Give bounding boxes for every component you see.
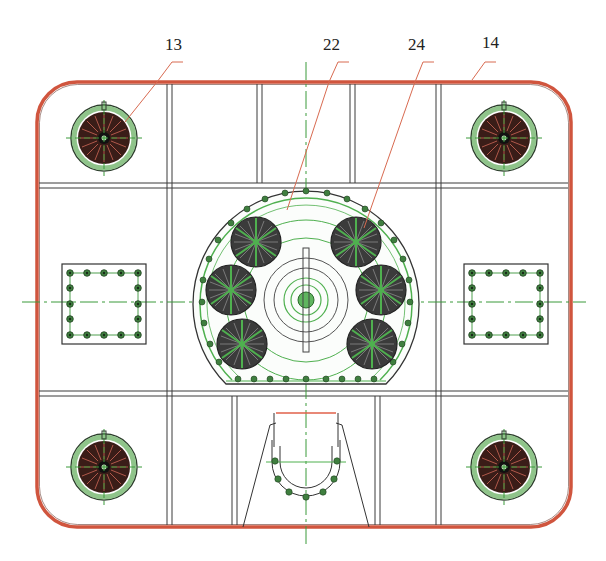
callout-24: 24 xyxy=(408,35,425,55)
bolt-plate-right xyxy=(464,264,548,344)
motor-upper-left xyxy=(231,217,281,267)
corner-unit-top-left xyxy=(66,100,142,176)
motor-lower-right xyxy=(347,319,397,369)
corner-unit-top-right xyxy=(466,100,542,176)
motor-mid-left xyxy=(206,265,256,315)
motor-upper-right xyxy=(331,217,381,267)
corner-unit-bottom-right xyxy=(466,429,542,505)
motor-lower-left xyxy=(217,319,267,369)
callout-22: 22 xyxy=(323,35,340,55)
motor-mid-right xyxy=(356,265,406,315)
callout-14: 14 xyxy=(482,33,499,53)
corner-unit-bottom-left xyxy=(66,429,142,505)
engineering-drawing xyxy=(0,0,606,561)
callout-13: 13 xyxy=(165,35,182,55)
bolt-plate-left xyxy=(62,264,146,344)
